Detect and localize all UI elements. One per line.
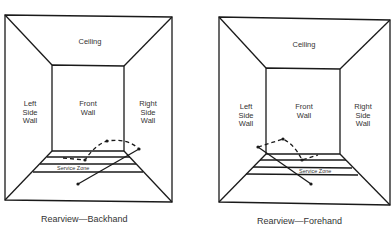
right-wall-label: Right Side Wall (343, 103, 383, 129)
left-wall-label: Left Side Wall (226, 103, 266, 129)
ball-path-dashed (258, 139, 318, 160)
left-wall-label: Left Side Wall (10, 100, 50, 126)
caption-backhand: Rearview—Backhand (41, 214, 128, 224)
right-wall-label: Right Side Wall (128, 100, 168, 126)
ceiling-label: Ceiling (70, 38, 110, 47)
caption-forehand: Rearview—Forehand (257, 216, 342, 226)
ceiling-label: Ceiling (284, 41, 324, 50)
front-wall-label: Front Wall (68, 100, 108, 117)
ball-path-solid (258, 147, 311, 184)
service-zone-label: Service Zone (57, 165, 89, 171)
ball-point (309, 182, 312, 185)
front-wall-label: Front Wall (284, 103, 324, 120)
court-diagrams (0, 0, 392, 227)
ball-point (76, 182, 79, 185)
ball-point (137, 147, 140, 150)
ball-point (105, 139, 108, 142)
ball-point (300, 158, 303, 161)
ball-point (256, 145, 259, 148)
ball-point (281, 137, 284, 140)
service-zone-label: Service Zone (299, 168, 331, 174)
service-line-lower (246, 174, 358, 175)
ball-point (83, 158, 86, 161)
